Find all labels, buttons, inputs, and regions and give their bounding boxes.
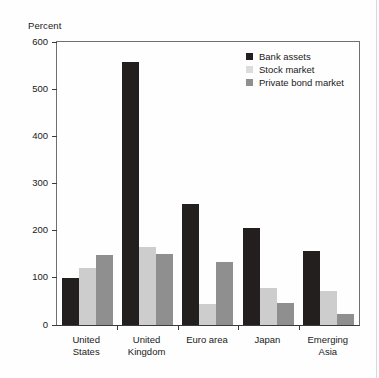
x-group-separator <box>178 325 179 330</box>
y-tick-label: 600 <box>32 36 48 47</box>
bar-1 <box>260 288 277 325</box>
y-axis-title: Percent <box>28 20 61 31</box>
bar-1 <box>79 268 96 325</box>
bar-2 <box>216 262 233 325</box>
bar-2 <box>96 255 113 325</box>
y-tick-label: 100 <box>32 271 48 282</box>
chart-legend: Bank assetsStock marketPrivate bond mark… <box>246 50 344 89</box>
bar-group <box>178 42 238 325</box>
bar-group <box>57 42 117 325</box>
bar-group <box>117 42 177 325</box>
y-tick-label: 200 <box>32 224 48 235</box>
x-axis-label: EmergingAsia <box>298 334 358 357</box>
x-group-separator <box>238 325 239 330</box>
y-tick-label: 300 <box>32 177 48 188</box>
x-group-separator <box>299 325 300 330</box>
bar-0 <box>243 228 260 325</box>
x-axis-label-line1: Euro area <box>177 334 237 346</box>
bar-0 <box>182 204 199 325</box>
bar-2 <box>337 314 354 325</box>
legend-label: Private bond market <box>259 77 344 88</box>
y-tick-label: 400 <box>32 130 48 141</box>
legend-item: Stock market <box>246 63 344 76</box>
legend-label: Bank assets <box>259 51 311 62</box>
x-axis-label-line2: Asia <box>298 346 358 358</box>
legend-item: Bank assets <box>246 50 344 63</box>
legend-item: Private bond market <box>246 76 344 89</box>
bar-chart-figure: Percent 0100200300400500600 UnitedStates… <box>0 0 379 378</box>
y-tick-label: 500 <box>32 83 48 94</box>
x-axis-label-line1: United <box>56 334 116 346</box>
x-axis-label-line1: United <box>116 334 176 346</box>
x-axis-label: UnitedStates <box>56 334 116 357</box>
x-axis-label-line1: Emerging <box>298 334 358 346</box>
x-axis-label: Japan <box>237 334 297 346</box>
x-axis-label: UnitedKingdom <box>116 334 176 357</box>
x-axis-label: Euro area <box>177 334 237 346</box>
bar-0 <box>62 278 79 325</box>
bar-0 <box>303 251 320 325</box>
page-edge-rule <box>376 0 377 378</box>
bar-0 <box>122 62 139 325</box>
bar-2 <box>277 303 294 325</box>
legend-swatch-icon <box>246 66 253 73</box>
x-axis-label-line2: Kingdom <box>116 346 176 358</box>
legend-label: Stock market <box>259 64 314 75</box>
legend-swatch-icon <box>246 53 253 60</box>
bar-2 <box>156 254 173 325</box>
x-axis-label-line1: Japan <box>237 334 297 346</box>
legend-swatch-icon <box>246 79 253 86</box>
x-axis-label-line2: States <box>56 346 116 358</box>
bar-1 <box>139 247 156 325</box>
bar-1 <box>320 291 337 325</box>
bar-1 <box>199 304 216 325</box>
y-tick-label: 0 <box>43 319 48 330</box>
x-group-separator <box>117 325 118 330</box>
